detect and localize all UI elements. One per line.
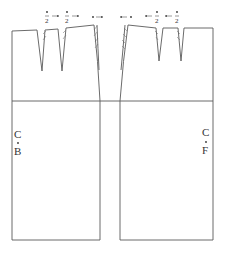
front-panel xyxy=(120,25,213,240)
back-panel xyxy=(12,25,100,240)
front-dart-annotations: 2 2 xyxy=(120,11,179,25)
skirt-pattern-diagram: 2 2 2 2 C B C F xyxy=(0,0,226,256)
svg-text:B: B xyxy=(14,145,21,157)
front-panel-outline xyxy=(120,25,213,240)
svg-text:F: F xyxy=(202,144,208,156)
svg-text:C: C xyxy=(202,126,209,138)
svg-text:2: 2 xyxy=(155,17,159,25)
svg-text:2: 2 xyxy=(175,17,179,25)
svg-text:2: 2 xyxy=(45,17,49,25)
front-dart-hatching xyxy=(121,25,180,70)
center-front-label: C F xyxy=(202,126,209,156)
center-back-label: C B xyxy=(14,128,21,157)
svg-text:2: 2 xyxy=(65,17,69,25)
back-dart-hatching xyxy=(43,25,99,70)
back-panel-outline xyxy=(12,25,100,240)
back-dart-annotations: 2 2 xyxy=(45,11,103,25)
svg-text:C: C xyxy=(14,128,21,140)
